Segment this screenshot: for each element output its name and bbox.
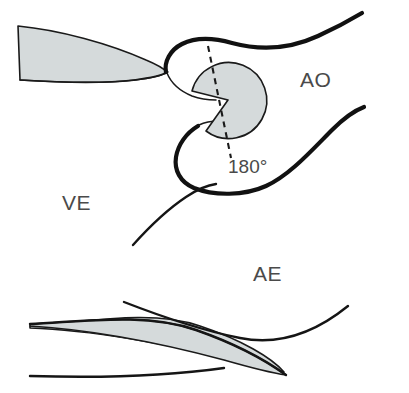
label-ve: VE: [62, 191, 91, 214]
upper-left-leaflet: [18, 26, 167, 82]
aortic-wall-lower-outline: [176, 107, 364, 194]
anatomical-figure: AO VE AE 180°: [0, 0, 409, 393]
label-ao: AO: [300, 68, 331, 91]
label-ae: AE: [253, 262, 282, 285]
annotation-angle-180: 180°: [228, 156, 267, 177]
occluder-disc: [192, 63, 267, 139]
figure-canvas: AO VE AE 180°: [0, 0, 409, 393]
lower-leaflet-bottom-edge: [30, 368, 224, 377]
aortic-wall-upper-outline: [166, 13, 362, 72]
